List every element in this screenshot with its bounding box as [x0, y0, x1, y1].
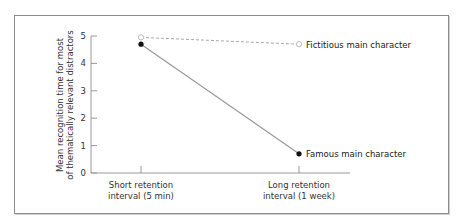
y-tick-label: 1	[81, 141, 86, 151]
y-ticks: 0 1 2 3 4 5	[81, 31, 97, 178]
open-circle-marker	[296, 42, 301, 47]
series-label-fictitious: Fictitious main character	[306, 40, 412, 50]
filled-circle-marker	[138, 42, 143, 47]
series-famous: Famous main character	[138, 42, 406, 159]
y-tick-label: 0	[81, 168, 86, 178]
series-fictitious: Fictitious main character	[138, 35, 411, 50]
x-category-label: Long retention	[268, 180, 330, 190]
x-category-label: interval (1 week)	[263, 191, 335, 201]
y-axis-title: Mean recognition time for most of themat…	[55, 30, 75, 180]
y-tick-label: 5	[81, 31, 86, 41]
y-tick-label: 2	[81, 113, 86, 123]
x-category-label: Short retention	[109, 180, 173, 190]
y-tick-label: 4	[81, 58, 86, 68]
open-circle-marker	[138, 35, 143, 40]
series-label-famous: Famous main character	[306, 149, 406, 159]
line-chart: 0 1 2 3 4 5 Short retention interval (5 …	[0, 0, 459, 223]
svg-text:Mean recognition time for most: Mean recognition time for most	[55, 37, 65, 172]
svg-text:of thematically relevant distr: of thematically relevant distractors	[65, 30, 75, 180]
x-category-label: interval (5 min)	[108, 191, 174, 201]
y-tick-label: 3	[81, 86, 86, 96]
filled-circle-marker	[296, 151, 301, 156]
